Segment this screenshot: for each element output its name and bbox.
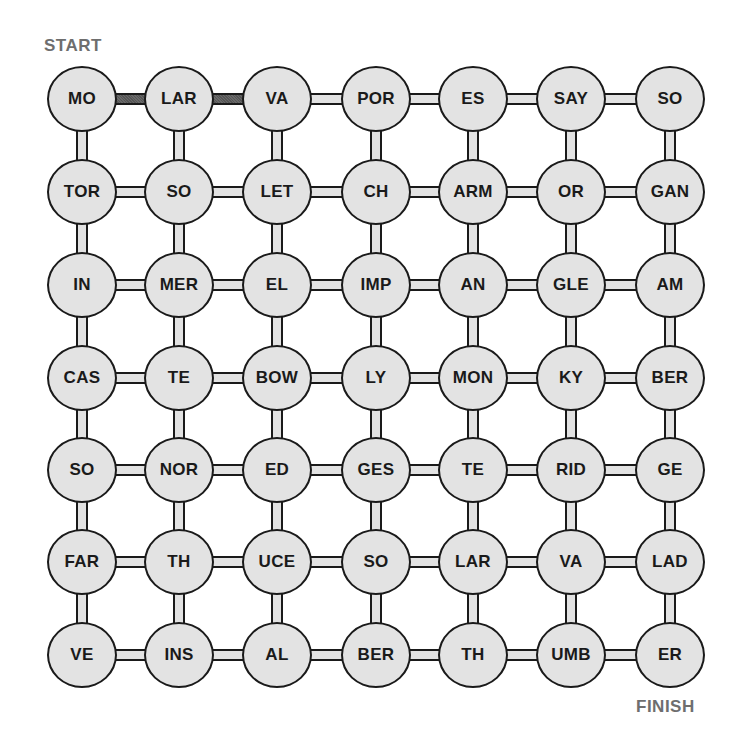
node-label: TE <box>462 460 484 480</box>
grid-node-r2-c2[interactable]: EL <box>242 252 312 318</box>
grid-node-r1-c1[interactable]: SO <box>144 159 214 225</box>
node-label: LET <box>260 182 293 202</box>
grid-node-r5-c6[interactable]: LAD <box>635 529 705 595</box>
node-label: TE <box>168 368 190 388</box>
grid-node-r1-c6[interactable]: GAN <box>635 159 705 225</box>
grid-node-r2-c4[interactable]: AN <box>438 252 508 318</box>
node-label: MON <box>453 368 494 388</box>
node-label: SAY <box>554 89 588 109</box>
grid-node-r2-c0[interactable]: IN <box>47 252 117 318</box>
node-label: GES <box>358 460 395 480</box>
grid-node-r0-c5[interactable]: SAY <box>536 66 606 132</box>
grid-node-r5-c4[interactable]: LAR <box>438 529 508 595</box>
grid-node-r6-c6[interactable]: ER <box>635 622 705 688</box>
node-label: LAR <box>455 552 491 572</box>
node-label: NOR <box>160 460 199 480</box>
node-label: IN <box>73 275 91 295</box>
grid-node-r4-c0[interactable]: SO <box>47 437 117 503</box>
node-label: ER <box>658 645 682 665</box>
node-label: ARM <box>453 182 493 202</box>
node-label: GE <box>657 460 682 480</box>
node-label: KY <box>559 368 583 388</box>
grid-node-r5-c5[interactable]: VA <box>536 529 606 595</box>
node-label: TOR <box>64 182 100 202</box>
node-label: OR <box>558 182 584 202</box>
grid-node-r3-c1[interactable]: TE <box>144 345 214 411</box>
node-label: SO <box>363 552 388 572</box>
node-label: UMB <box>551 645 591 665</box>
node-label: CAS <box>64 368 101 388</box>
grid-node-r3-c6[interactable]: BER <box>635 345 705 411</box>
node-label: LY <box>366 368 387 388</box>
node-label: BOW <box>256 368 298 388</box>
word-grid-board: MOLARVAPORESSAYSOTORSOLETCHARMORGANINMER… <box>0 0 744 745</box>
node-label: UCE <box>259 552 296 572</box>
node-label: MER <box>160 275 199 295</box>
node-label: TH <box>461 645 484 665</box>
grid-node-r4-c2[interactable]: ED <box>242 437 312 503</box>
node-label: ES <box>461 89 484 109</box>
grid-node-r0-c4[interactable]: ES <box>438 66 508 132</box>
grid-node-r6-c0[interactable]: VE <box>47 622 117 688</box>
node-label: GAN <box>651 182 690 202</box>
grid-node-r1-c3[interactable]: CH <box>341 159 411 225</box>
node-label: AN <box>460 275 485 295</box>
grid-node-r0-c6[interactable]: SO <box>635 66 705 132</box>
node-label: VA <box>266 89 289 109</box>
node-label: LAR <box>161 89 197 109</box>
grid-node-r5-c0[interactable]: FAR <box>47 529 117 595</box>
grid-node-r3-c5[interactable]: KY <box>536 345 606 411</box>
grid-node-r0-c3[interactable]: POR <box>341 66 411 132</box>
grid-node-r0-c1[interactable]: LAR <box>144 66 214 132</box>
node-label: ED <box>265 460 289 480</box>
node-label: VA <box>560 552 583 572</box>
node-label: INS <box>164 645 193 665</box>
grid-node-r4-c1[interactable]: NOR <box>144 437 214 503</box>
node-label: CH <box>363 182 388 202</box>
node-label: LAD <box>652 552 688 572</box>
grid-node-r6-c2[interactable]: AL <box>242 622 312 688</box>
grid-node-r2-c3[interactable]: IMP <box>341 252 411 318</box>
grid-node-r0-c2[interactable]: VA <box>242 66 312 132</box>
node-label: EL <box>266 275 288 295</box>
grid-node-r2-c1[interactable]: MER <box>144 252 214 318</box>
node-label: SO <box>166 182 191 202</box>
node-label: BER <box>652 368 689 388</box>
grid-node-r3-c0[interactable]: CAS <box>47 345 117 411</box>
node-label: VE <box>70 645 93 665</box>
grid-node-r2-c6[interactable]: AM <box>635 252 705 318</box>
grid-node-r6-c5[interactable]: UMB <box>536 622 606 688</box>
grid-node-r4-c6[interactable]: GE <box>635 437 705 503</box>
grid-node-r0-c0[interactable]: MO <box>47 66 117 132</box>
grid-node-r3-c3[interactable]: LY <box>341 345 411 411</box>
grid-node-r3-c2[interactable]: BOW <box>242 345 312 411</box>
grid-node-r1-c5[interactable]: OR <box>536 159 606 225</box>
grid-node-r4-c3[interactable]: GES <box>341 437 411 503</box>
node-label: POR <box>357 89 395 109</box>
grid-node-r6-c4[interactable]: TH <box>438 622 508 688</box>
grid-node-r6-c3[interactable]: BER <box>341 622 411 688</box>
node-label: IMP <box>360 275 391 295</box>
node-label: TH <box>167 552 190 572</box>
node-label: RID <box>556 460 586 480</box>
node-label: MO <box>68 89 96 109</box>
node-label: AM <box>656 275 683 295</box>
grid-node-r1-c4[interactable]: ARM <box>438 159 508 225</box>
grid-node-r3-c4[interactable]: MON <box>438 345 508 411</box>
grid-node-r5-c1[interactable]: TH <box>144 529 214 595</box>
node-label: SO <box>69 460 94 480</box>
grid-node-r5-c2[interactable]: UCE <box>242 529 312 595</box>
grid-node-r1-c0[interactable]: TOR <box>47 159 117 225</box>
grid-node-r5-c3[interactable]: SO <box>341 529 411 595</box>
node-label: GLE <box>553 275 589 295</box>
node-label: BER <box>358 645 395 665</box>
grid-node-r6-c1[interactable]: INS <box>144 622 214 688</box>
grid-node-r4-c5[interactable]: RID <box>536 437 606 503</box>
node-label: AL <box>265 645 288 665</box>
grid-node-r4-c4[interactable]: TE <box>438 437 508 503</box>
grid-node-r1-c2[interactable]: LET <box>242 159 312 225</box>
node-label: FAR <box>65 552 100 572</box>
node-label: SO <box>657 89 682 109</box>
grid-node-r2-c5[interactable]: GLE <box>536 252 606 318</box>
